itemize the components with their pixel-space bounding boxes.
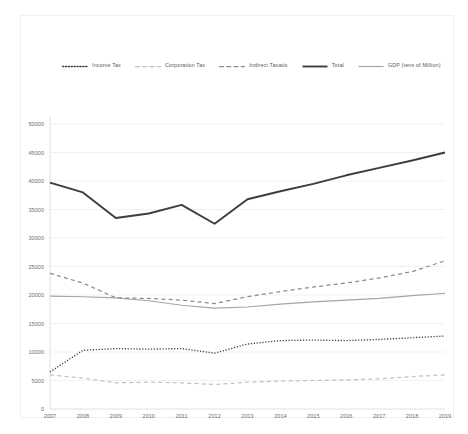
x-axis-tick-label: 2008 xyxy=(77,413,89,419)
data-series xyxy=(50,153,445,385)
chart-container: Income TaxCorporation TaxIndirect Taxati… xyxy=(0,0,468,434)
series-line xyxy=(50,293,445,308)
x-axis-tick-label: 2015 xyxy=(307,413,319,419)
y-axis-tick-label: 10000 xyxy=(28,349,44,355)
y-axis-tick-label: 20000 xyxy=(28,292,44,298)
gridlines xyxy=(50,116,445,409)
y-axis-tick-label: 5000 xyxy=(32,378,44,384)
y-axis-tick-label: 15000 xyxy=(28,321,44,327)
x-axis-tick-label: 2011 xyxy=(176,413,188,419)
x-axis-tick-label: 2009 xyxy=(110,413,122,419)
x-axis-tick-label: 2019 xyxy=(439,413,451,419)
y-axis-tick-label: 50000 xyxy=(28,121,44,127)
y-axis-tick-label: 40000 xyxy=(28,178,44,184)
x-axis-tick-label: 2017 xyxy=(373,413,385,419)
y-axis-tick-labels: 0500010000150002000025000300003500040000… xyxy=(28,121,44,412)
x-axis-tick-label: 2016 xyxy=(340,413,352,419)
x-axis-tick-label: 2018 xyxy=(406,413,418,419)
x-axis-tick-labels: 2007200820092010201120122013201420152016… xyxy=(44,413,451,419)
x-axis-tick-label: 2013 xyxy=(241,413,253,419)
series-line xyxy=(50,336,445,372)
series-line xyxy=(50,375,445,385)
y-axis-tick-label: 25000 xyxy=(28,264,44,270)
y-axis-tick-label: 30000 xyxy=(28,235,44,241)
x-axis-tick-label: 2014 xyxy=(274,413,286,419)
y-axis-tick-label: 0 xyxy=(41,406,44,412)
x-axis-tick-label: 2010 xyxy=(143,413,155,419)
y-axis-tick-label: 45000 xyxy=(28,150,44,156)
x-axis-tick-label: 2007 xyxy=(44,413,56,419)
x-axis-tick-label: 2012 xyxy=(208,413,220,419)
series-line xyxy=(50,153,445,224)
y-axis-tick-label: 35000 xyxy=(28,207,44,213)
chart-plot-area: 0500010000150002000025000300003500040000… xyxy=(0,0,468,434)
